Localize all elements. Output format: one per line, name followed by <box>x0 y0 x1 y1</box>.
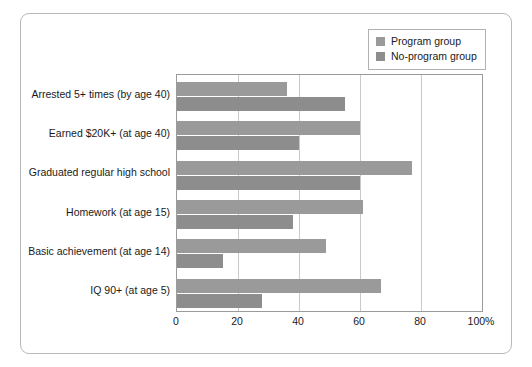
legend-swatch-program-group <box>376 37 385 46</box>
chart-figure: Program group No-program group Arrested … <box>0 0 532 367</box>
bar-no-program-group <box>177 215 293 229</box>
chart-legend: Program group No-program group <box>368 29 486 70</box>
bar-no-program-group <box>177 176 360 190</box>
bar-group <box>177 272 482 311</box>
y-category-label: Basic achievement (at age 14) <box>20 245 170 257</box>
x-tick-label: 20 <box>231 315 243 327</box>
y-category-label: Arrested 5+ times (by age 40) <box>20 88 170 100</box>
bar-group <box>177 193 482 232</box>
bar-program-group <box>177 82 287 96</box>
x-tick-label: 80 <box>414 315 426 327</box>
bar-no-program-group <box>177 254 223 268</box>
bar-program-group <box>177 121 360 135</box>
x-tick-label: 60 <box>353 315 365 327</box>
x-axis-tick-labels: 020406080100% <box>176 315 481 331</box>
bar-program-group <box>177 279 381 293</box>
bar-no-program-group <box>177 97 345 111</box>
legend-swatch-no-program-group <box>376 52 385 61</box>
bar-group <box>177 75 482 114</box>
bar-group <box>177 114 482 153</box>
bar-group <box>177 232 482 271</box>
bar-program-group <box>177 239 326 253</box>
y-axis-category-labels: Arrested 5+ times (by age 40)Earned $20K… <box>20 74 170 310</box>
bar-program-group <box>177 161 412 175</box>
bar-groups <box>177 75 482 311</box>
y-category-label: IQ 90+ (at age 5) <box>20 284 170 296</box>
x-tick-label: 40 <box>292 315 304 327</box>
bar-no-program-group <box>177 136 299 150</box>
legend-item-no-program-group: No-program group <box>376 49 477 64</box>
bar-no-program-group <box>177 294 262 308</box>
plot-area <box>176 74 483 312</box>
bar-group <box>177 154 482 193</box>
legend-label-no-program-group: No-program group <box>391 50 477 63</box>
legend-label-program-group: Program group <box>391 35 461 48</box>
x-tick-label: 0 <box>173 315 179 327</box>
y-category-label: Homework (at age 15) <box>20 206 170 218</box>
y-category-label: Graduated regular high school <box>20 166 170 178</box>
legend-item-program-group: Program group <box>376 34 477 49</box>
y-category-label: Earned $20K+ (at age 40) <box>20 127 170 139</box>
bar-program-group <box>177 200 363 214</box>
x-tick-label: 100% <box>468 315 495 327</box>
